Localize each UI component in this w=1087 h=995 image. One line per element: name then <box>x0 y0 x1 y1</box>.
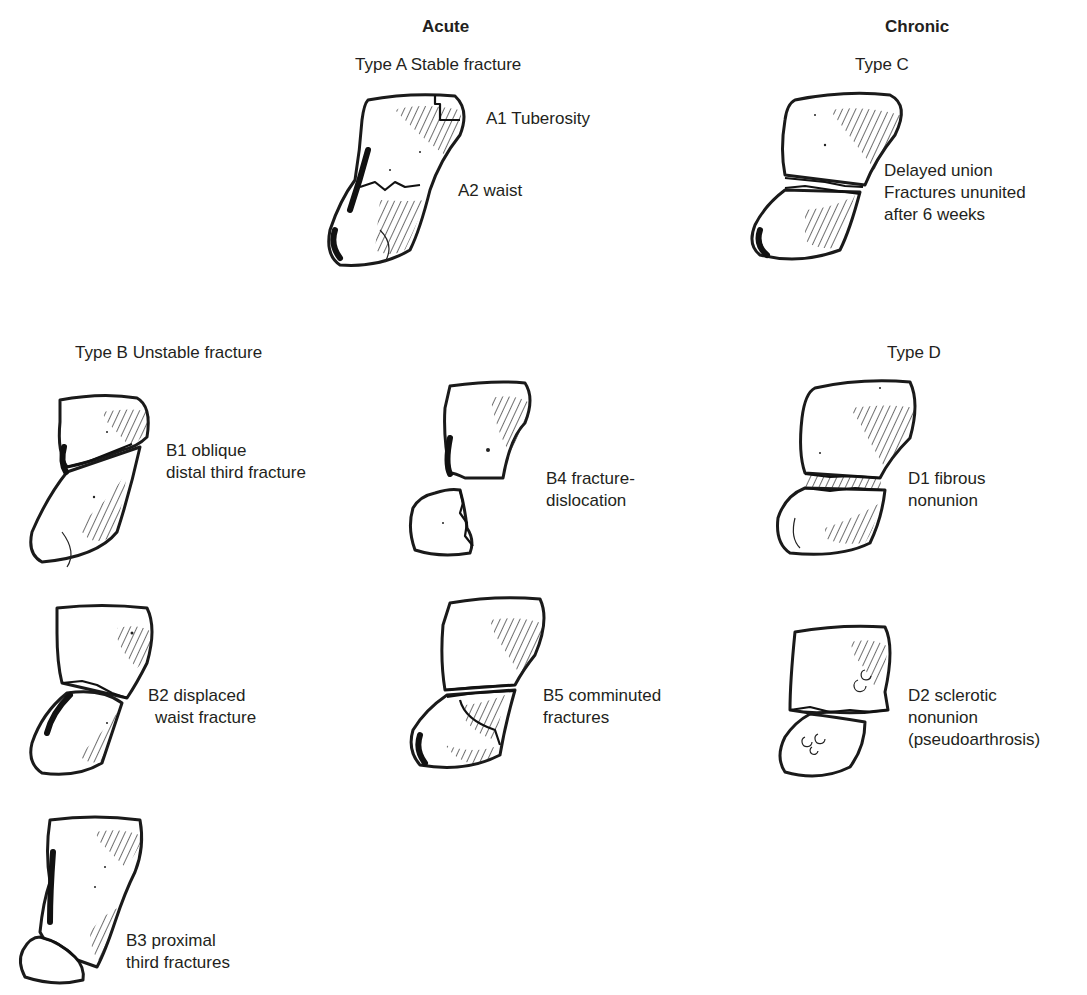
scaphoid-b1-illustration <box>22 392 157 572</box>
scaphoid-a-illustration <box>320 90 470 270</box>
type-c-heading: Type C <box>855 54 909 76</box>
label-line: B1 oblique <box>166 440 306 462</box>
label-b3-proximal-third: B3 proximal third fractures <box>126 930 230 974</box>
label-line: third fractures <box>126 952 230 974</box>
label-b5-comminuted: B5 comminuted fractures <box>543 685 661 729</box>
label-d1-fibrous-nonunion: D1 fibrous nonunion <box>908 468 985 512</box>
scaphoid-b4-illustration <box>405 378 535 558</box>
label-line: fractures <box>543 707 661 729</box>
label-line: Delayed union <box>884 160 1026 182</box>
label-b2-displaced-waist: B2 displaced waist fracture <box>148 685 256 729</box>
label-line: nonunion <box>908 707 1040 729</box>
type-d-heading: Type D <box>887 342 941 364</box>
scaphoid-b5-illustration <box>405 595 550 775</box>
label-b4-fracture-dislocation: B4 fracture- dislocation <box>546 468 635 512</box>
label-line: Fractures ununited <box>884 182 1026 204</box>
chronic-header: Chronic <box>885 17 949 37</box>
acute-header: Acute <box>422 17 469 37</box>
label-line: B4 fracture- <box>546 468 635 490</box>
label-line: after 6 weeks <box>884 204 1026 226</box>
label-c-delayed-union: Delayed union Fractures ununited after 6… <box>884 160 1026 226</box>
label-line: distal third fracture <box>166 462 306 484</box>
scaphoid-d1-illustration <box>770 378 920 563</box>
label-line: B2 displaced <box>148 685 256 707</box>
label-line: dislocation <box>546 490 635 512</box>
type-b-heading: Type B Unstable fracture <box>75 342 262 364</box>
label-line: (pseudoarthrosis) <box>908 729 1040 751</box>
label-line: B3 proximal <box>126 930 230 952</box>
label-a1-tuberosity: A1 Tuberosity <box>486 108 590 130</box>
label-line: nonunion <box>908 490 985 512</box>
label-d2-sclerotic-nonunion: D2 sclerotic nonunion (pseudoarthrosis) <box>908 685 1040 751</box>
type-a-heading: Type A Stable fracture <box>355 54 521 76</box>
scaphoid-b2-illustration <box>22 603 157 783</box>
scaphoid-d2-illustration <box>770 622 900 782</box>
label-line: D1 fibrous <box>908 468 985 490</box>
label-a2-waist: A2 waist <box>458 180 522 202</box>
label-line: B5 comminuted <box>543 685 661 707</box>
label-b1-oblique: B1 oblique distal third fracture <box>166 440 306 484</box>
label-line: D2 sclerotic <box>908 685 1040 707</box>
label-line: waist fracture <box>148 707 256 729</box>
